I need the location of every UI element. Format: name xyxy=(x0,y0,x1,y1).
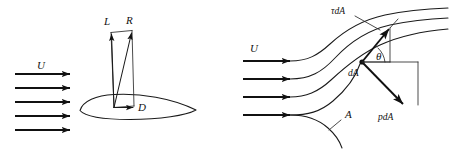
label-resultant: R xyxy=(125,14,133,26)
label-lift: L xyxy=(103,15,110,27)
label-freestream-left: U xyxy=(37,59,46,71)
lift-vector xyxy=(112,34,115,108)
freestream-arrows-left xyxy=(15,74,70,130)
label-area: A xyxy=(344,108,352,120)
label-tau-da: τdA xyxy=(331,6,345,16)
label-p-da: pdA xyxy=(377,112,394,122)
label-da: dA xyxy=(348,68,359,78)
tau-leader-line xyxy=(355,16,380,30)
area-leader-line xyxy=(329,120,341,130)
left-panel-group xyxy=(15,31,196,131)
label-theta: θ xyxy=(376,50,382,62)
force-vector-group xyxy=(111,31,134,108)
figure-canvas: U L R D U τdA dA θ pdA A xyxy=(0,0,450,149)
freestream-arrows-right xyxy=(243,61,290,115)
right-panel-group xyxy=(243,8,448,148)
figure-svg: U L R D U τdA dA θ pdA A xyxy=(0,0,450,149)
label-freestream-right: U xyxy=(250,42,259,54)
resultant-vector xyxy=(114,33,132,108)
p-da-vector xyxy=(362,62,403,104)
label-drag: D xyxy=(137,101,146,113)
